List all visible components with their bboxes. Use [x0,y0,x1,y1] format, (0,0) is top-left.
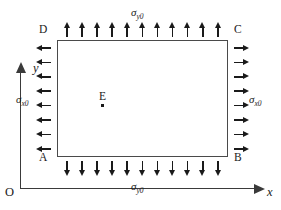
corner-label-d: D [39,24,47,36]
arrow-head-icon [36,88,42,94]
arrow-head-icon [243,146,249,152]
traction-arrow-up [154,22,161,37]
arrow-head-icon [36,73,42,79]
arrow-head-icon [124,170,130,176]
traction-arrow-down [169,161,176,176]
traction-arrow-down [94,161,101,176]
arrow-head-icon [36,102,42,108]
traction-arrow-up [169,22,176,37]
traction-arrow-down [215,161,222,176]
traction-arrow-up [199,22,206,37]
rectangular-plate [57,40,228,157]
y-axis-line [20,72,21,189]
arrow-head-icon [139,170,145,176]
traction-arrow-down [139,161,146,176]
traction-arrow-right [234,45,249,52]
arrow-head-icon [215,170,221,176]
arrow-head-icon [243,59,249,65]
arrow-head-icon [169,22,175,28]
arrow-head-icon [243,117,249,123]
traction-arrow-right [234,131,249,138]
traction-arrow-up [109,22,116,37]
arrow-head-icon [169,170,175,176]
x-axis-arrowhead-icon [254,184,265,194]
traction-arrow-down [64,161,71,176]
arrow-head-icon [199,22,205,28]
traction-arrow-left [36,88,51,95]
traction-arrow-down [154,161,161,176]
arrow-head-icon [243,131,249,137]
sigma-x0-left-label: σx0 [16,94,29,105]
traction-arrow-right [234,59,249,66]
arrow-head-icon [243,102,249,108]
sigma-subscript-left: x0 [21,99,28,108]
traction-arrow-down [79,161,86,176]
sigma-subscript-right: x0 [254,99,261,108]
arrow-head-icon [36,59,42,65]
y-axis-arrowhead-icon [16,62,26,73]
traction-arrow-right [234,73,249,80]
corner-label-b: B [234,152,242,164]
traction-arrow-up [79,22,86,37]
arrow-head-icon [36,146,42,152]
corner-label-c: C [234,24,242,36]
traction-arrow-left [36,59,51,66]
corner-label-a: A [39,152,47,164]
arrow-head-icon [79,170,85,176]
traction-arrow-down [199,161,206,176]
traction-arrow-left [36,117,51,124]
arrow-head-icon [64,170,70,176]
traction-arrow-left [36,102,51,109]
arrow-head-icon [184,170,190,176]
arrow-head-icon [243,45,249,51]
arrow-head-icon [243,73,249,79]
traction-arrow-left [36,45,51,52]
traction-arrow-up [215,22,222,37]
point-e-label: E [99,91,106,103]
traction-arrow-left [36,131,51,138]
arrow-head-icon [124,22,130,28]
arrow-head-icon [94,22,100,28]
traction-arrow-down [109,161,116,176]
arrow-head-icon [154,22,160,28]
arrow-head-icon [154,170,160,176]
sigma-subscript-top: y0 [136,12,143,21]
arrow-head-icon [79,22,85,28]
sigma-y0-top-label: σy0 [131,7,144,18]
origin-label: O [5,186,14,199]
traction-arrow-right [234,88,249,95]
arrow-head-icon [184,22,190,28]
sigma-x0-right-label: σx0 [249,94,262,105]
arrow-head-icon [36,131,42,137]
sigma-y0-bottom-label: σy0 [131,181,144,192]
arrow-head-icon [94,170,100,176]
stress-diagram-figure: O x y D C A B E σy0 σy0 σx0 σx0 [0,0,281,210]
arrow-head-icon [64,22,70,28]
x-axis-label: x [267,186,273,199]
point-e-dot [101,104,104,107]
traction-arrow-up [124,22,131,37]
traction-arrow-left [36,73,51,80]
traction-arrow-down [124,161,131,176]
arrow-head-icon [36,117,42,123]
traction-arrow-up [184,22,191,37]
arrow-head-icon [215,22,221,28]
sigma-subscript-bottom: y0 [136,186,143,195]
arrow-head-icon [36,45,42,51]
traction-arrow-up [139,22,146,37]
traction-arrow-right [234,146,249,153]
traction-arrow-right [234,102,249,109]
traction-arrow-left [36,146,51,153]
traction-arrow-up [94,22,101,37]
arrow-head-icon [243,88,249,94]
arrow-head-icon [199,170,205,176]
arrow-head-icon [109,170,115,176]
traction-arrow-right [234,117,249,124]
traction-arrow-down [184,161,191,176]
arrow-head-icon [109,22,115,28]
arrow-head-icon [139,22,145,28]
traction-arrow-up [64,22,71,37]
